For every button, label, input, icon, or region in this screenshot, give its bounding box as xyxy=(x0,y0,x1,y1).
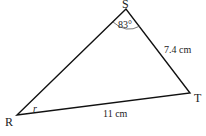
side-label-RT: 11 cm xyxy=(103,108,128,119)
vertex-label-R: R xyxy=(5,115,13,129)
triangle-RST xyxy=(17,9,190,115)
vertex-label-T: T xyxy=(194,91,202,105)
side-label-ST: 7.4 cm xyxy=(164,44,191,55)
vertex-label-S: S xyxy=(122,0,129,11)
angle-label-R: r xyxy=(33,103,37,114)
angle-label-S: 83° xyxy=(118,19,132,30)
triangle-diagram: S R T 83° r 7.4 cm 11 cm xyxy=(0,0,206,136)
